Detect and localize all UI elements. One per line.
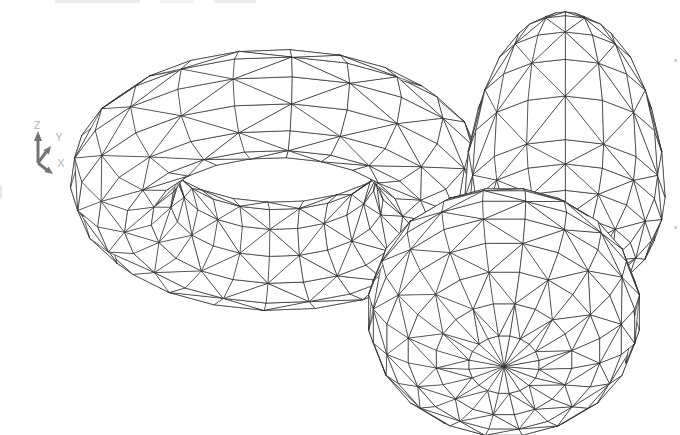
x-axis-label: X — [57, 157, 65, 169]
wireframe-scene — [0, 0, 680, 435]
x-axis-arrow — [38, 163, 53, 174]
scan-artifact — [674, 226, 677, 229]
y-axis-label: Y — [55, 131, 63, 143]
z-axis-label: Z — [34, 119, 41, 131]
y-axis-arrow — [38, 146, 51, 163]
scan-artifact — [214, 0, 256, 3]
scan-artifact — [55, 0, 140, 3]
scan-artifact — [160, 0, 194, 3]
figure-canvas: Z Y X — [0, 0, 680, 435]
scan-artifact — [0, 185, 2, 199]
ucs-axis-indicator: Z Y X — [18, 105, 88, 190]
scan-artifact — [674, 59, 677, 62]
sphere-mesh — [369, 189, 640, 435]
